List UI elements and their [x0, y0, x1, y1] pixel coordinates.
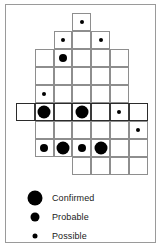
marker-confirmed[interactable]	[57, 142, 70, 155]
legend-swatch-possible-icon	[22, 226, 48, 245]
marker-probable[interactable]	[78, 144, 86, 152]
grid-cell[interactable]	[72, 49, 91, 67]
grid-cell[interactable]	[72, 121, 91, 139]
legend-label-confirmed: Confirmed	[52, 193, 94, 203]
grid-cell[interactable]	[110, 121, 129, 139]
grid-cell[interactable]	[54, 85, 73, 103]
marker-possible[interactable]	[42, 92, 46, 96]
grid-cell[interactable]	[54, 103, 73, 121]
marker-possible[interactable]	[136, 128, 140, 132]
legend-label-possible: Possible	[52, 231, 87, 241]
grid-cell[interactable]	[91, 49, 110, 67]
grid-cell[interactable]	[91, 67, 110, 85]
marker-confirmed[interactable]	[94, 142, 107, 155]
marker-possible[interactable]	[99, 38, 103, 42]
grid-cell[interactable]	[91, 157, 110, 175]
grid-cell[interactable]	[129, 139, 148, 157]
marker-possible[interactable]	[80, 20, 84, 24]
grid-cell[interactable]	[35, 67, 54, 85]
legend-label-probable: Probable	[52, 212, 89, 222]
grid-cell[interactable]	[110, 49, 129, 67]
grid-cell[interactable]	[16, 103, 35, 121]
grid-cell[interactable]	[110, 157, 129, 175]
grid-cell[interactable]	[35, 121, 54, 139]
grid-cell[interactable]	[54, 121, 73, 139]
grid-cell[interactable]	[91, 85, 110, 103]
grid-cell[interactable]	[110, 85, 129, 103]
marker-confirmed[interactable]	[75, 106, 88, 119]
legend-item-possible: Possible	[22, 226, 142, 245]
legend-swatch-confirmed-icon	[22, 188, 48, 207]
marker-confirmed[interactable]	[38, 106, 51, 119]
grid-cell[interactable]	[91, 121, 110, 139]
grid-cell[interactable]	[72, 67, 91, 85]
grid-cell[interactable]	[72, 157, 91, 175]
grid-cell[interactable]	[91, 103, 110, 121]
grid-cell[interactable]	[35, 49, 54, 67]
legend-item-confirmed: Confirmed	[22, 188, 142, 207]
grid-cell[interactable]	[54, 67, 73, 85]
marker-possible[interactable]	[117, 110, 121, 114]
legend-item-probable: Probable	[22, 207, 142, 226]
grid-cell[interactable]	[72, 31, 91, 49]
legend-swatch-probable-icon	[22, 207, 48, 226]
grid-cell[interactable]	[110, 139, 129, 157]
figure-root: Confirmed Probable Possible	[0, 0, 162, 248]
grid-cell[interactable]	[129, 103, 148, 121]
legend: Confirmed Probable Possible	[22, 188, 142, 245]
grid-cell[interactable]	[72, 85, 91, 103]
grid-cell[interactable]	[110, 67, 129, 85]
marker-probable[interactable]	[59, 54, 67, 62]
marker-possible[interactable]	[61, 38, 65, 42]
marker-probable[interactable]	[40, 144, 48, 152]
grid-cell[interactable]	[129, 157, 148, 175]
grid-area	[0, 0, 162, 180]
